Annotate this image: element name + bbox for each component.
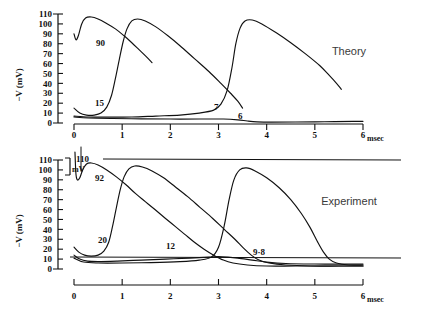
x-tick-label: 5 bbox=[313, 291, 318, 301]
experiment-x-tick-marks bbox=[74, 279, 363, 285]
y-tick-label: 0 bbox=[48, 264, 53, 274]
theory-x-unit-label: msec bbox=[367, 134, 384, 143]
curve-7 bbox=[74, 20, 341, 117]
y-tick-label: 50 bbox=[43, 215, 53, 225]
x-tick-label: 6 bbox=[361, 291, 366, 301]
experiment-x-unit-label: msec bbox=[367, 295, 384, 304]
curve-9·8 bbox=[74, 168, 363, 265]
x-tick-label: 0 bbox=[72, 291, 77, 301]
x-tick-label: 0 bbox=[72, 130, 77, 140]
theory-x-tick-labels: 0123456 bbox=[72, 130, 366, 140]
x-tick-label: 4 bbox=[264, 291, 269, 301]
curve-label-7: 7 bbox=[214, 102, 219, 112]
x-tick-label: 2 bbox=[168, 291, 173, 301]
theory-chart: 0102030405060708090100110 −V (mV) 012345… bbox=[0, 0, 429, 160]
curve-label-9·8: 9·8 bbox=[253, 247, 266, 257]
x-tick-label: 3 bbox=[216, 291, 221, 301]
x-tick-label: 6 bbox=[361, 130, 366, 140]
y-tick-label: 70 bbox=[43, 195, 53, 205]
y-tick-label: 30 bbox=[43, 234, 53, 244]
y-tick-label: 10 bbox=[43, 108, 53, 118]
y-tick-label: 40 bbox=[43, 225, 53, 235]
experiment-title: Experiment bbox=[321, 195, 377, 207]
x-tick-label: 5 bbox=[313, 130, 318, 140]
experiment-y-axis: 0102030405060708090100110 −V (mV) bbox=[14, 155, 63, 274]
experiment-panel: 0102030405060708090100110 −V (mV) 110 mV… bbox=[0, 145, 429, 321]
y-tick-label: 90 bbox=[43, 175, 53, 185]
theory-panel: 0102030405060708090100110 −V (mV) 012345… bbox=[0, 0, 429, 160]
experiment-110-reference-line bbox=[103, 159, 401, 160]
y-tick-label: 40 bbox=[43, 79, 53, 89]
curve-label-20: 20 bbox=[98, 235, 108, 245]
x-tick-label: 4 bbox=[264, 130, 269, 140]
y-tick-label: 110 bbox=[39, 155, 53, 165]
theory-x-axis: 0123456 msec bbox=[72, 124, 385, 143]
y-tick-label: 80 bbox=[43, 185, 53, 195]
x-tick-label: 1 bbox=[120, 130, 125, 140]
experiment-chart: 0102030405060708090100110 −V (mV) 110 mV… bbox=[0, 145, 429, 321]
y-tick-label: 30 bbox=[43, 88, 53, 98]
curve-label-12: 12 bbox=[166, 241, 176, 251]
x-tick-label: 3 bbox=[216, 130, 221, 140]
y-tick-label: 110 bbox=[39, 9, 53, 19]
y-tick-label: 20 bbox=[43, 98, 53, 108]
curve-label-90: 90 bbox=[96, 38, 106, 48]
y-tick-label: 10 bbox=[43, 254, 53, 264]
y-tick-label: 80 bbox=[43, 39, 53, 49]
experiment-y-tick-labels: 0102030405060708090100110 bbox=[39, 155, 53, 274]
x-tick-label: 2 bbox=[168, 130, 173, 140]
theory-y-tick-marks bbox=[58, 14, 63, 123]
y-tick-label: 20 bbox=[43, 244, 53, 254]
experiment-y-tick-marks bbox=[58, 160, 63, 269]
experiment-reference-value: 110 bbox=[76, 154, 90, 164]
theory-y-tick-labels: 0102030405060708090100110 bbox=[39, 9, 53, 128]
theory-y-axis: 0102030405060708090100110 −V (mV) bbox=[14, 9, 63, 128]
experiment-baselines bbox=[70, 257, 401, 258]
experiment-curves bbox=[74, 152, 363, 266]
y-tick-label: 70 bbox=[43, 49, 53, 59]
experiment-x-tick-labels: 0123456 bbox=[72, 291, 366, 301]
curve-20 bbox=[74, 166, 363, 266]
curve-90 bbox=[74, 17, 152, 63]
y-tick-label: 60 bbox=[43, 59, 53, 69]
curve-label-15: 15 bbox=[95, 98, 105, 108]
y-tick-label: 60 bbox=[43, 205, 53, 215]
y-tick-label: 50 bbox=[43, 69, 53, 79]
curve-6 bbox=[74, 117, 363, 122]
y-tick-label: 100 bbox=[39, 19, 53, 29]
curve-label-6: 6 bbox=[238, 111, 243, 121]
experiment-y-axis-label: −V (mV) bbox=[14, 214, 24, 248]
y-tick-label: 0 bbox=[48, 118, 53, 128]
theory-title: Theory bbox=[332, 45, 367, 57]
theory-curve-labels: 901576 bbox=[95, 38, 243, 121]
experiment-x-axis: 0123456 msec bbox=[72, 279, 385, 304]
experiment-reference-marker: 110 mV bbox=[65, 154, 401, 175]
y-tick-label: 100 bbox=[39, 165, 53, 175]
theory-curves bbox=[74, 17, 363, 122]
x-tick-label: 1 bbox=[120, 291, 125, 301]
theory-y-axis-label: −V (mV) bbox=[14, 68, 24, 102]
curve-label-92: 92 bbox=[95, 173, 105, 183]
y-tick-label: 90 bbox=[43, 29, 53, 39]
curve-92 bbox=[75, 152, 363, 266]
